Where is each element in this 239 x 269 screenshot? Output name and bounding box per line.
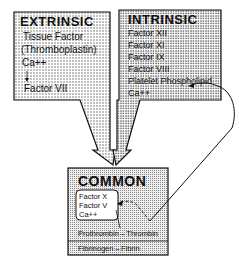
intrinsic-item-factor-viii: Factor VIII <box>128 65 170 74</box>
intrinsic-title: INTRINSIC <box>128 13 198 26</box>
intrinsic-item-factor-xii: Factor XII <box>128 29 167 38</box>
extrinsic-title: EXTRINSIC <box>20 15 94 28</box>
extrinsic-item-thromboplastin: (Thromboplastin) <box>21 45 97 55</box>
intrinsic-item-factor-ix: Factor IX <box>128 53 165 62</box>
common-item-factor-x: Factor X <box>79 193 107 201</box>
common-item-factor-v: Factor V <box>79 202 107 210</box>
common-title: COMMON <box>78 174 146 188</box>
common-reaction-fibrinogen-fibrin: Fibrinogen→Fibrin <box>78 245 140 253</box>
common-reaction-prothrombin-thrombin: Prothrombin→Thrombin <box>78 230 158 238</box>
intrinsic-item-calcium: Ca++ <box>128 89 150 98</box>
extrinsic-item-factor-vii: Factor VII <box>24 84 67 94</box>
extrinsic-item-calcium: Ca++ <box>22 58 46 68</box>
intrinsic-item-factor-xi: Factor XI <box>128 41 165 50</box>
intrinsic-item-platelet-phospholipid: Platelet Phospholipid <box>128 77 212 86</box>
extrinsic-item-tissue-factor: Tissue Factor <box>23 32 83 42</box>
common-item-calcium: Ca++ <box>79 211 97 219</box>
